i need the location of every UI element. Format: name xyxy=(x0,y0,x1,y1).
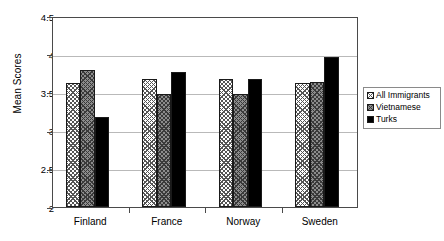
bar-group xyxy=(283,18,360,207)
bar-group xyxy=(130,18,207,207)
y-axis-title: Mean Scores xyxy=(12,34,23,134)
x-tick-mark xyxy=(129,208,130,213)
bar xyxy=(80,70,95,207)
legend-label: Turks xyxy=(376,115,397,124)
bar xyxy=(295,83,310,207)
bar xyxy=(310,82,325,207)
bar-group xyxy=(53,18,130,207)
legend-item: All Immigrants xyxy=(367,90,438,101)
legend-item: Turks xyxy=(367,114,438,125)
bar xyxy=(171,72,186,207)
bar xyxy=(248,79,263,207)
legend-label: All Immigrants xyxy=(376,91,430,100)
bar-chart: Mean Scores 22.533.544.5 FinlandFranceNo… xyxy=(0,0,444,241)
bar xyxy=(157,94,172,207)
bar xyxy=(219,79,234,207)
bar xyxy=(233,94,248,207)
legend: All ImmigrantsVietnameseTurks xyxy=(363,87,441,129)
y-tick-mark xyxy=(47,208,52,209)
bar xyxy=(142,79,157,207)
legend-item: Vietnamese xyxy=(367,102,438,113)
bar xyxy=(324,57,339,208)
legend-swatch-icon xyxy=(367,104,374,111)
bar-group xyxy=(206,18,283,207)
bar xyxy=(95,117,110,207)
x-tick-mark xyxy=(282,208,283,213)
x-tick-label: Sweden xyxy=(275,216,365,228)
bar xyxy=(66,83,81,207)
legend-swatch-icon xyxy=(367,116,374,123)
plot-area xyxy=(52,17,358,208)
legend-label: Vietnamese xyxy=(376,103,421,112)
legend-swatch-icon xyxy=(367,92,374,99)
x-tick-mark xyxy=(205,208,206,213)
